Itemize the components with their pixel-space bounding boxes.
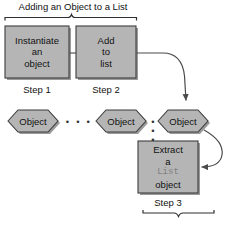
hexagon-object-middle bbox=[96, 110, 148, 134]
bottom-brace bbox=[143, 210, 214, 217]
step-label-3: Step 3 bbox=[138, 197, 198, 208]
hexagon-object-first bbox=[8, 110, 60, 134]
arrow-object-to-extract bbox=[202, 130, 223, 167]
top-brace bbox=[5, 15, 137, 21]
ellipsis-dots-right: • • • bbox=[148, 117, 160, 144]
ellipsis-dots-left: • • • bbox=[62, 117, 96, 126]
box-extract-list-object bbox=[138, 141, 200, 195]
box-add-to-list bbox=[76, 26, 138, 80]
step-label-1: Step 1 bbox=[7, 84, 67, 95]
page-title: Adding an Object to a List bbox=[0, 1, 146, 12]
box-instantiate-object bbox=[5, 26, 71, 80]
step-label-2: Step 2 bbox=[76, 84, 136, 95]
diagram-vector-layer bbox=[0, 0, 234, 226]
diagram-canvas: Adding an Object to a List bbox=[0, 0, 234, 226]
arrow-addlist-to-object bbox=[137, 53, 187, 101]
hexagon-object-last bbox=[158, 110, 210, 134]
